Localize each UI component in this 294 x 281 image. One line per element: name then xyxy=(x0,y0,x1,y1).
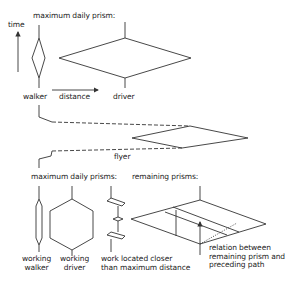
flyer-prism xyxy=(132,126,248,148)
label-line: driver xyxy=(60,264,89,273)
working-driver-prism xyxy=(50,199,93,250)
label-line: than maximum distance xyxy=(101,264,190,273)
remaining-prisms-title: remaining prisms: xyxy=(132,173,198,181)
flyer-path-upper xyxy=(52,122,190,126)
label-line: preceding path xyxy=(209,261,285,270)
top-title: maximum daily prism: xyxy=(33,12,115,20)
max-prisms-title: maximum daily prisms: xyxy=(31,173,117,181)
flyer-path-lower xyxy=(52,148,182,151)
driver-prism xyxy=(59,38,191,78)
work-prism-2 xyxy=(113,217,123,221)
relation-label: relation between remaining prism and pre… xyxy=(209,244,285,270)
distance-label: distance xyxy=(59,93,90,101)
label-line: walker xyxy=(22,264,51,273)
flyer-label: flyer xyxy=(114,153,130,161)
diagram-canvas xyxy=(0,0,294,281)
remaining-prism xyxy=(131,200,266,244)
working-walker-label: working walker xyxy=(22,255,51,272)
work-prism-1 xyxy=(107,198,125,206)
working-driver-label: working driver xyxy=(60,255,89,272)
work-prism-3 xyxy=(107,232,125,239)
walker-label: walker xyxy=(23,93,47,101)
driver-label: driver xyxy=(113,93,134,101)
walker-prism xyxy=(32,38,45,78)
work-located-label: work located closer than maximum distanc… xyxy=(101,255,190,272)
working-walker-prism xyxy=(36,199,42,245)
time-axis-label: time xyxy=(8,21,25,29)
